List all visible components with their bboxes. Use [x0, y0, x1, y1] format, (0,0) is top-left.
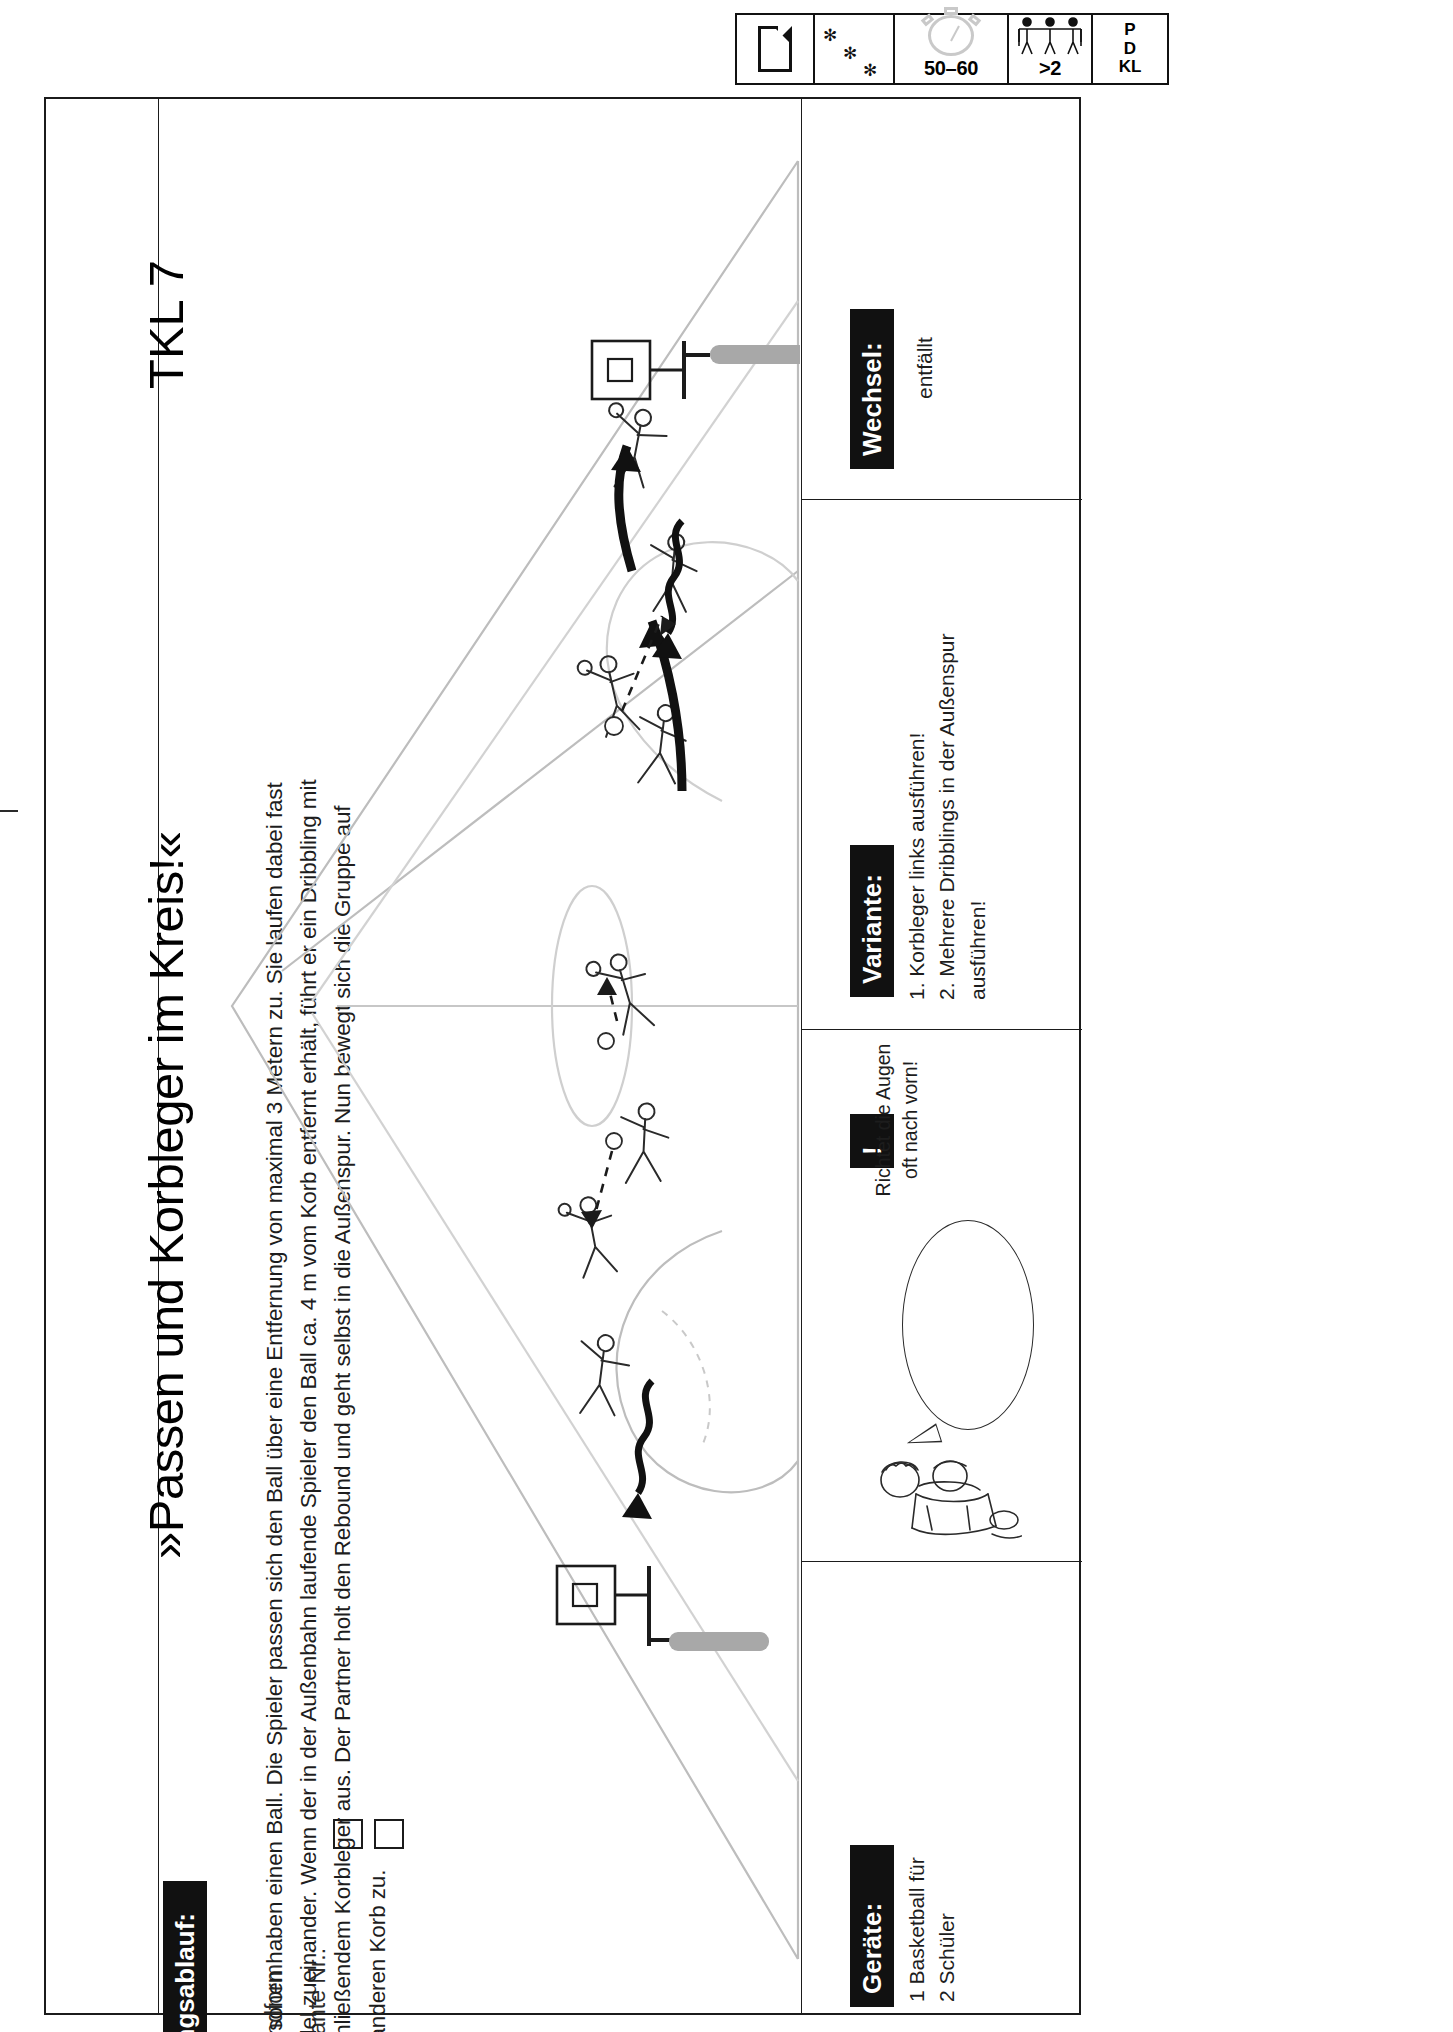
- pass-arrowheads: [581, 616, 676, 1229]
- header-icon-strip: ✻ ✻ ✻ 50–60: [735, 13, 1169, 85]
- stopwatch-ear-left-icon: [921, 13, 935, 26]
- info-sections-band: Wechsel: entfällt Variante: 1. Korbleger…: [801, 99, 1081, 2013]
- group-icon: [1016, 16, 1084, 56]
- snowflake-group: ✻ ✻ ✻: [821, 19, 887, 79]
- snowflake-icon: ✻: [823, 27, 837, 44]
- code-line-kl: KL: [1119, 58, 1142, 76]
- wechsel-text: entfällt: [910, 199, 940, 399]
- freethrow-arcs: [662, 1311, 710, 1446]
- page-footer: [0, 2018, 1453, 2019]
- section-wechsel: Wechsel: entfällt: [802, 99, 1082, 499]
- basketball-court-diagram: [162, 101, 800, 2013]
- geraete-label: Geräte:: [850, 1845, 894, 2007]
- section-hinweis: ! Richtet die Augen oft nach vorn!: [802, 1029, 1082, 1561]
- basket-top: [592, 341, 800, 399]
- code-line-p: P: [1124, 21, 1135, 39]
- code-line-d: D: [1124, 40, 1136, 58]
- wechsel-label: Wechsel:: [850, 309, 894, 469]
- stopwatch-icon: [928, 15, 974, 56]
- hinweis-text: Richtet die Augen oft nach vorn!: [870, 1040, 924, 1200]
- section-variante: Variante: 1. Korbleger links ausführen! …: [802, 499, 1082, 1029]
- variante-text: 1. Korbleger links ausführen! 2. Mehrere…: [902, 530, 993, 1000]
- pass-lines: [592, 616, 662, 1226]
- document-icon: [758, 26, 792, 72]
- three-people-icon: [1016, 16, 1084, 56]
- document-fold-icon: [776, 29, 789, 42]
- stopwatch-ear-right-icon: [968, 13, 982, 26]
- snowflake-icon: ✻: [843, 45, 857, 62]
- basketballs: [598, 717, 623, 1149]
- duration-value: 50–60: [924, 57, 978, 83]
- speech-bubble: [902, 1220, 1034, 1430]
- document-icon-cell: [737, 15, 815, 83]
- duration-cell: 50–60: [895, 15, 1009, 83]
- code-cell: P D KL: [1093, 15, 1167, 83]
- section-geraete: Geräte: 1 Basketball für 2 Schüler: [802, 1561, 1082, 2013]
- variante-label: Variante:: [850, 845, 894, 997]
- card-frame: »Passen und Korbleger im Kreis!« TKL 7 Ü…: [44, 97, 1081, 2015]
- title-column: »Passen und Korbleger im Kreis!« TKL 7: [46, 99, 159, 2013]
- speech-bubble-tail-icon: [904, 1423, 943, 1453]
- difficulty-icon-cell: ✻ ✻ ✻: [815, 15, 895, 83]
- exercise-card-page: ✻ ✻ ✻ 50–60: [0, 0, 1453, 2032]
- group-size-value: >2: [1039, 57, 1061, 83]
- motion-arrows: [611, 446, 682, 1519]
- geraete-text: 1 Basketball für 2 Schüler: [902, 1702, 963, 2002]
- court-lines: [232, 161, 798, 1959]
- group-size-cell: >2: [1009, 15, 1093, 83]
- stopwatch-crown-icon: [944, 7, 958, 15]
- snowflake-icon: ✻: [863, 62, 877, 79]
- coach-figure-icon: [872, 1450, 1022, 1546]
- left-crop-mark: [0, 810, 18, 812]
- court-svg: [162, 101, 800, 2013]
